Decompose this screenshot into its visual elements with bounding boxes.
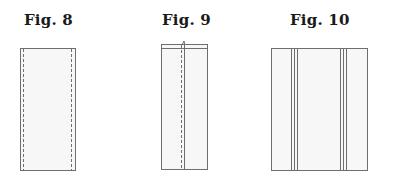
fig-8-diagram bbox=[21, 49, 76, 171]
fig-9-diagram bbox=[162, 41, 208, 170]
fig-10-panel bbox=[272, 49, 368, 171]
fig-8-panel bbox=[21, 49, 76, 171]
fig-10-diagram bbox=[272, 49, 368, 171]
diagram-canvas bbox=[0, 0, 395, 181]
